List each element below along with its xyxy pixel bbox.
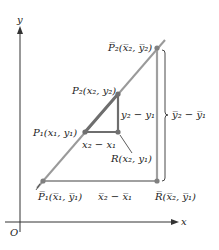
x-axis-arrow-icon — [171, 219, 179, 225]
diagram-canvas: y x O P̅₂(x̅₂, y̅₂) P₂(x₂, y₂) P₁(x₁, y₁… — [0, 0, 219, 250]
point-p2bar — [154, 45, 159, 50]
big-dy-bracket — [162, 50, 168, 181]
point-p1bar — [40, 178, 45, 183]
r-leader-line — [120, 135, 132, 153]
origin-label: O — [10, 227, 18, 238]
y-axis-arrow-icon — [17, 26, 23, 34]
label-p2: P₂(x₂, y₂) — [71, 85, 116, 96]
x-axis-label: x — [181, 216, 187, 227]
label-p1: P₁(x₁, y₁) — [32, 127, 77, 138]
small-triangle — [85, 94, 118, 132]
point-p1 — [82, 129, 87, 134]
small-triangle-hypotenuse — [85, 94, 118, 132]
label-r: R(x₂, y₁) — [110, 153, 152, 164]
label-small-dy: y₂ − y₁ — [120, 109, 155, 120]
label-p2bar: P̅₂(x̅₂, y̅₂) — [107, 42, 152, 53]
label-rbar: R̅(x̅₂, y̅₁) — [154, 191, 196, 202]
point-rbar — [154, 178, 159, 183]
label-big-dy: y̅₂ − y̅₁ — [171, 109, 206, 120]
axes — [5, 26, 179, 232]
point-r — [115, 129, 120, 134]
y-axis-label: y — [16, 14, 23, 25]
label-small-dx: x₂ − x₁ — [82, 139, 116, 150]
label-big-dx: x̅₂ − x̅₁ — [98, 191, 132, 202]
label-p1bar: P̅₁(x̅₁, y̅₁) — [37, 191, 82, 202]
